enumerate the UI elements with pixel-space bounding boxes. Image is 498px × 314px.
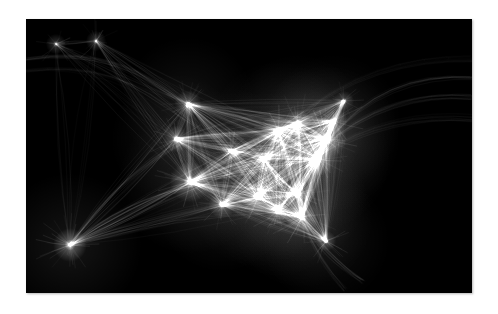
flight-route-visualization-panel	[26, 19, 472, 293]
flight-route-density-canvas	[26, 19, 472, 293]
page-root	[0, 0, 498, 314]
